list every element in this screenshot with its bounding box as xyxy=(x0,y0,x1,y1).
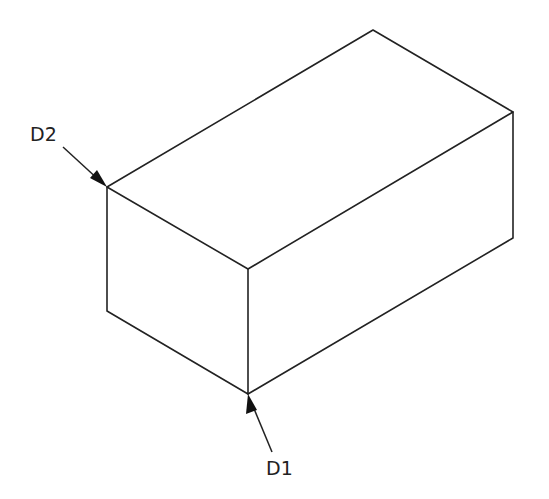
right-face-edges xyxy=(248,112,513,394)
label-d1: D1 xyxy=(266,457,293,479)
isometric-block-diagram: D2 D1 xyxy=(0,0,549,499)
left-face-edges xyxy=(107,187,248,394)
top-face xyxy=(107,30,513,269)
d1-leader-line xyxy=(252,404,272,452)
label-d2: D2 xyxy=(30,123,57,145)
d2-arrowhead-icon xyxy=(90,170,107,187)
